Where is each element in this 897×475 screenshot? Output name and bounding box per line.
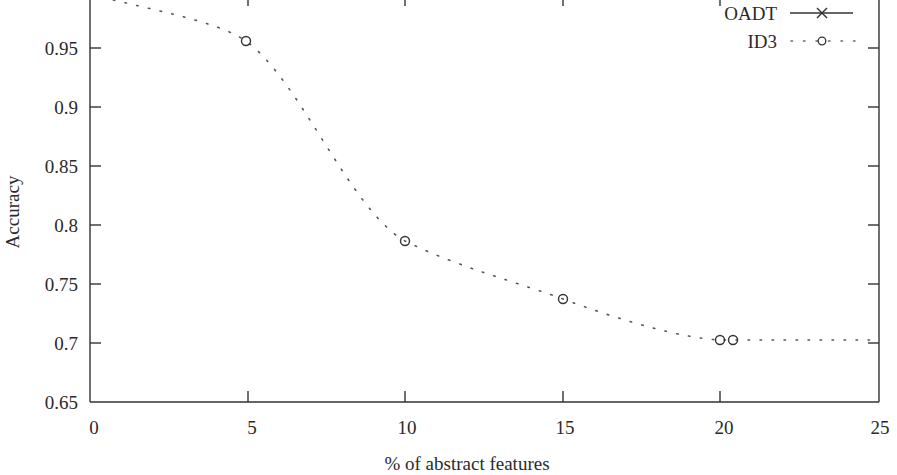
y-tick-label: 0.85 (45, 156, 78, 177)
x-tick-label: 5 (247, 417, 257, 438)
x-tick-label: 25 (871, 417, 890, 438)
x-axis-title: % of abstract features (384, 453, 549, 474)
x-tick-label: 15 (556, 417, 575, 438)
x-tick-label: 10 (398, 417, 417, 438)
x-ticks (248, 0, 720, 402)
x-tick-label: 20 (715, 417, 734, 438)
y-tick-label: 0.9 (54, 97, 78, 118)
legend-swatch-oadt (790, 8, 853, 18)
legend: OADT ID3 (724, 3, 855, 52)
x-tick-labels: 0 5 10 15 20 25 (89, 417, 889, 438)
y-tick-label: 0.7 (54, 333, 78, 354)
y-tick-label: 0.95 (45, 38, 78, 59)
y-tick-labels: 0.65 0.7 0.75 0.8 0.85 0.9 0.95 (45, 38, 78, 413)
legend-label-id3: ID3 (747, 31, 777, 52)
x-tick-label: 0 (89, 417, 99, 438)
y-tick-label: 0.75 (45, 274, 78, 295)
y-axis-title: Accuracy (2, 175, 23, 248)
data-point (716, 336, 725, 345)
y-tick-label: 0.65 (45, 392, 78, 413)
data-point (242, 37, 251, 46)
legend-swatch-id3 (791, 37, 855, 45)
id3-series-markers (242, 37, 738, 345)
legend-label-oadt: OADT (724, 3, 777, 24)
y-ticks (90, 48, 879, 343)
plot-frame (90, 0, 879, 402)
y-tick-label: 0.8 (54, 215, 78, 236)
chart: 0.65 0.7 0.75 0.8 0.85 0.9 0.95 0 5 10 1… (0, 0, 897, 475)
